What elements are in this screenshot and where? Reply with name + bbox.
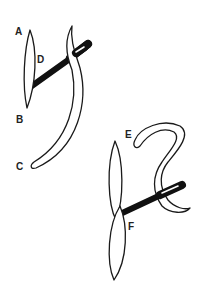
label-e: E xyxy=(125,129,132,140)
tissue-flap-ab xyxy=(24,30,35,108)
label-b: B xyxy=(16,114,23,125)
suture-diagram: A D B C E F xyxy=(0,0,205,299)
tissue-hook-e xyxy=(134,123,190,212)
tissue-flap-lower xyxy=(109,206,125,280)
panel-top: A D B C xyxy=(15,26,88,172)
tissue-curve-c xyxy=(31,26,83,168)
label-c: C xyxy=(16,161,23,172)
label-f: F xyxy=(128,221,134,232)
panel-bottom: E F xyxy=(109,123,190,280)
label-a: A xyxy=(15,26,22,37)
label-d: D xyxy=(37,54,44,65)
